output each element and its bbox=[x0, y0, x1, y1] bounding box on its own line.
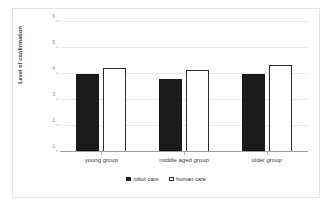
legend-item-label: human care bbox=[176, 176, 206, 182]
y-axis-tick-label: 5 bbox=[52, 39, 55, 45]
legend-item[interactable]: robot care bbox=[126, 176, 158, 182]
y-axis-tick-label: 4 bbox=[52, 65, 55, 71]
y-axis-tick-label: 3 bbox=[52, 91, 55, 97]
bar-robot-care bbox=[159, 79, 182, 152]
y-axis-tick-mark bbox=[56, 125, 59, 126]
outline-square-icon bbox=[169, 177, 174, 182]
x-axis-tick-mark bbox=[267, 152, 268, 155]
chart-legend: robot carehuman care bbox=[0, 176, 332, 182]
y-axis-tick-label: 1 bbox=[52, 143, 55, 149]
plot-area: 123456 young groupmiddle aged groupolder… bbox=[60, 22, 308, 152]
x-axis-category-label: older group bbox=[212, 157, 322, 163]
bar-human-care bbox=[269, 65, 292, 152]
filled-square-icon bbox=[126, 177, 131, 182]
y-axis-tick-label: 2 bbox=[52, 117, 55, 123]
x-axis-tick-mark bbox=[101, 152, 102, 155]
bar-robot-care bbox=[76, 74, 99, 152]
bar-human-care bbox=[186, 70, 209, 152]
chart-figure: Level of confirmation 123456 young group… bbox=[0, 0, 332, 208]
bar-human-care bbox=[103, 68, 126, 153]
y-axis-title: Level of confirmation bbox=[17, 13, 23, 97]
x-axis-tick-mark bbox=[184, 152, 185, 155]
bar-group: young group bbox=[60, 22, 143, 152]
bar-group: older group bbox=[225, 22, 308, 152]
legend-item[interactable]: human care bbox=[169, 176, 206, 182]
y-axis-tick-mark bbox=[56, 47, 59, 48]
x-axis-line bbox=[60, 151, 308, 152]
bar-group: middle aged group bbox=[143, 22, 226, 152]
y-axis-tick-mark bbox=[56, 73, 59, 74]
legend-item-label: robot care bbox=[133, 176, 158, 182]
bar-robot-care bbox=[242, 74, 265, 152]
y-axis-tick-label: 6 bbox=[52, 13, 55, 19]
y-axis-tick-mark bbox=[56, 21, 59, 22]
y-axis-tick-mark bbox=[56, 99, 59, 100]
y-axis-tick-mark bbox=[56, 151, 59, 152]
